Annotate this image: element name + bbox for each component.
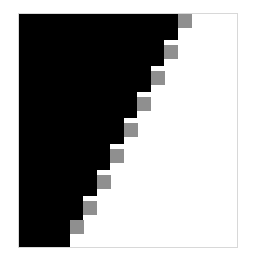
heatmap-step-fill — [19, 92, 137, 118]
heatmap-step-edge — [124, 123, 138, 137]
heatmap-step-edge — [164, 45, 178, 59]
heatmap-step-edge — [97, 175, 111, 189]
heatmap-step-fill — [19, 170, 97, 196]
heatmap-step-edge — [151, 71, 165, 85]
heatmap-step-fill — [19, 118, 124, 144]
plot-axes — [18, 13, 238, 248]
heatmap-step-edge — [70, 220, 84, 234]
heatmap-step-edge — [110, 149, 124, 163]
heatmap-step-edge — [83, 201, 97, 215]
heatmap-step-edge — [137, 97, 151, 111]
heatmap-step-fill — [19, 144, 110, 170]
figure-canvas — [0, 0, 253, 262]
heatmap-step-fill — [19, 196, 83, 222]
heatmap-surface — [19, 14, 237, 247]
heatmap-step-edge — [178, 14, 192, 28]
heatmap-step-fill — [19, 14, 178, 40]
heatmap-step-fill — [19, 222, 70, 248]
heatmap-step-fill — [19, 66, 151, 92]
heatmap-step-fill — [19, 40, 164, 66]
